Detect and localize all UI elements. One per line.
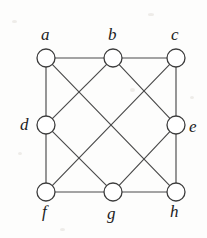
graph-figure: abcdefgh bbox=[0, 0, 207, 238]
graph-vertex-d[interactable] bbox=[37, 116, 55, 134]
graph-vertex-c[interactable] bbox=[167, 49, 185, 67]
vertex-label-h: h bbox=[170, 203, 179, 220]
vertex-label-b: b bbox=[108, 26, 117, 43]
graph-vertex-e[interactable] bbox=[167, 116, 185, 134]
graph-vertex-f[interactable] bbox=[37, 183, 55, 201]
vertex-label-c: c bbox=[171, 26, 179, 43]
vertex-label-g: g bbox=[107, 205, 116, 222]
graph-vertex-g[interactable] bbox=[104, 183, 122, 201]
graph-vertex-a[interactable] bbox=[37, 49, 55, 67]
vertex-label-f: f bbox=[42, 203, 47, 220]
graph-vertex-h[interactable] bbox=[167, 183, 185, 201]
vertex-label-a: a bbox=[41, 26, 50, 43]
graph-vertex-b[interactable] bbox=[104, 49, 122, 67]
edge-layer bbox=[46, 58, 176, 192]
vertex-label-e: e bbox=[189, 118, 197, 135]
vertex-label-d: d bbox=[20, 116, 29, 133]
